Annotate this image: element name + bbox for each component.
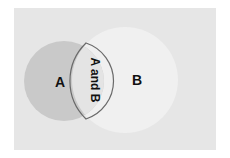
intersection-label: A and B (88, 58, 102, 103)
set-b-label: B (132, 72, 142, 88)
set-a-label: A (55, 74, 65, 90)
venn-diagram: A B A and B (0, 0, 230, 158)
